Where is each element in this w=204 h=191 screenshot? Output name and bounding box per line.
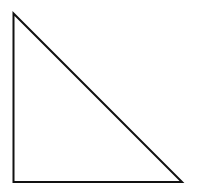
- right-triangle: [14, 14, 183, 183]
- diagram-canvas: [0, 0, 204, 191]
